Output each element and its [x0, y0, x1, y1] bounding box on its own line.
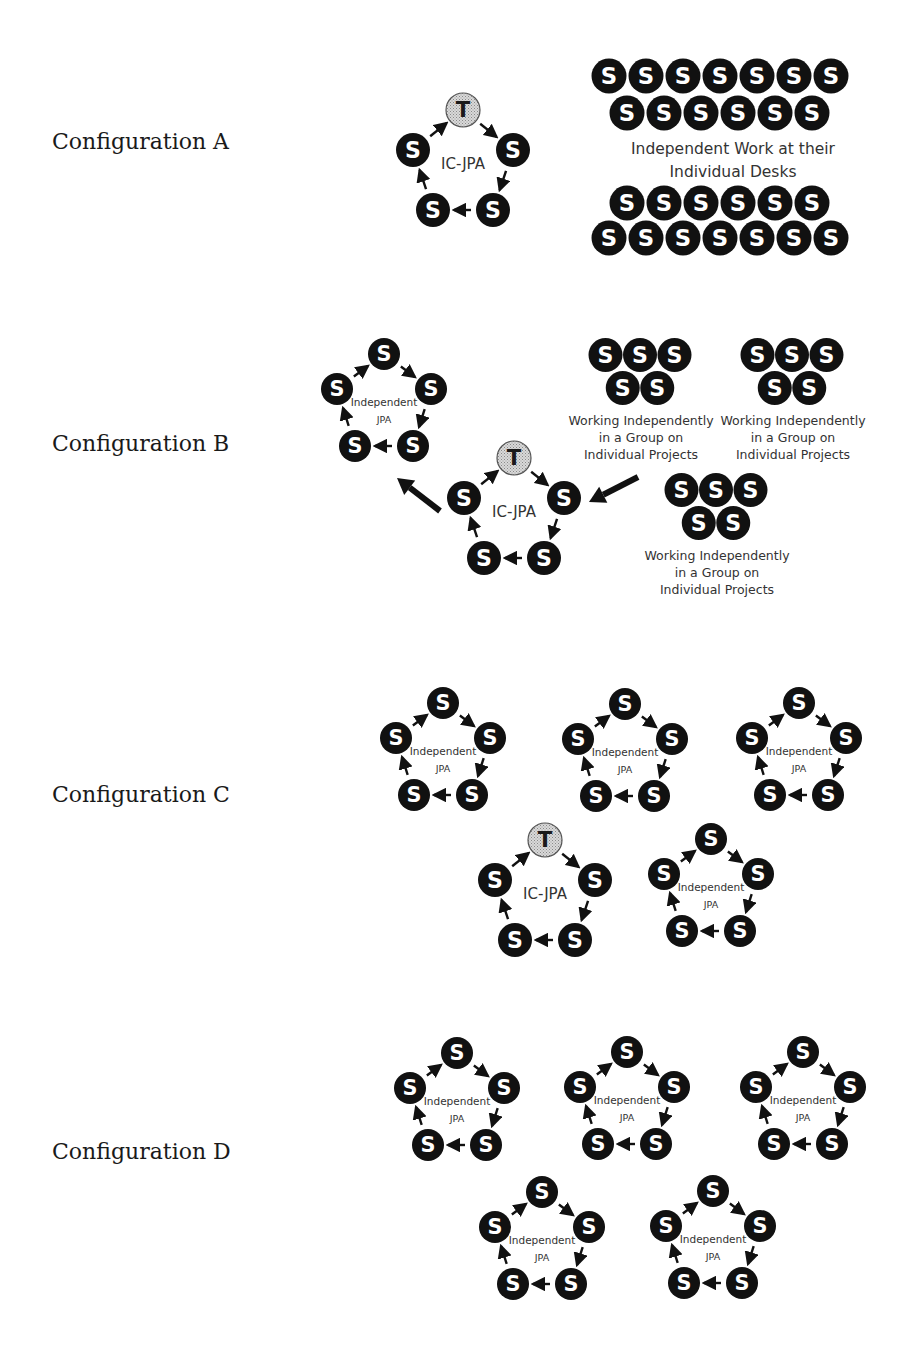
group-caption: Working Independently	[568, 413, 714, 428]
svg-text:S: S	[706, 1179, 721, 1203]
teacher-node: T	[497, 441, 531, 475]
svg-text:S: S	[749, 1075, 764, 1099]
cycle-arrow-icon	[427, 1065, 441, 1076]
student-node: S	[648, 858, 680, 890]
svg-text:S: S	[598, 342, 614, 368]
svg-text:S: S	[667, 1075, 682, 1099]
svg-text:S: S	[330, 377, 345, 401]
independent-label: Independent	[351, 396, 418, 408]
svg-text:S: S	[497, 1076, 512, 1100]
cycle-arrow-icon	[430, 123, 446, 136]
svg-text:S: S	[476, 545, 492, 571]
svg-text:S: S	[674, 477, 690, 503]
group-student: S	[734, 473, 768, 507]
group-caption: Individual Projects	[736, 447, 850, 462]
svg-text:S: S	[819, 342, 835, 368]
cycle-arrow-icon	[728, 852, 742, 863]
svg-text:S: S	[619, 190, 635, 216]
svg-text:S: S	[377, 342, 392, 366]
cycle-arrow-icon	[597, 1064, 611, 1075]
cycle-arrow-icon	[748, 1246, 754, 1264]
group-caption: in a Group on	[751, 430, 836, 445]
cycle-arrow-icon	[401, 367, 415, 378]
student-node: S	[496, 133, 530, 167]
student-desk: S	[629, 59, 664, 94]
svg-text:S: S	[556, 485, 572, 511]
cycle-arrow-icon	[584, 758, 590, 776]
jpa-label: JPA	[703, 899, 719, 910]
independent-jpa-cluster: SSSSSIndependentJPA	[740, 1036, 866, 1160]
svg-text:S: S	[804, 190, 820, 216]
svg-text:S: S	[488, 1215, 503, 1239]
svg-text:S: S	[647, 784, 662, 808]
group-student: S	[741, 338, 775, 372]
svg-text:S: S	[573, 1075, 588, 1099]
student-desk: S	[684, 186, 719, 221]
cycle-arrow-icon	[413, 715, 427, 726]
svg-text:S: S	[693, 100, 709, 126]
svg-text:S: S	[601, 63, 617, 89]
svg-text:T: T	[538, 827, 553, 852]
group-student: S	[589, 338, 623, 372]
cycle-arrow-icon	[670, 893, 676, 911]
svg-text:S: S	[751, 862, 766, 886]
independent-label: Independent	[410, 745, 477, 757]
cycle-arrow-icon	[460, 716, 474, 727]
svg-text:S: S	[601, 225, 617, 251]
student-node: S	[396, 133, 430, 167]
independent-group: SSSSSWorking Independentlyin a Group onI…	[568, 338, 714, 462]
teacher-node: T	[528, 823, 562, 857]
svg-text:S: S	[389, 726, 404, 750]
svg-text:S: S	[507, 927, 523, 953]
student-node: S	[783, 687, 815, 719]
svg-text:S: S	[649, 375, 665, 401]
cycle-arrow-icon	[501, 1246, 507, 1264]
cycle-arrow-icon	[762, 1106, 768, 1124]
cycle-arrow-icon	[586, 1106, 592, 1124]
student-desk: S	[814, 59, 849, 94]
svg-text:S: S	[801, 375, 817, 401]
group-student: S	[699, 473, 733, 507]
cycle-arrow-icon	[642, 717, 656, 728]
svg-text:S: S	[786, 225, 802, 251]
student-desk: S	[610, 186, 645, 221]
svg-text:S: S	[403, 1076, 418, 1100]
cycle-arrow-icon	[531, 472, 547, 485]
svg-text:S: S	[730, 100, 746, 126]
group-caption: Individual Projects	[584, 447, 698, 462]
svg-text:S: S	[675, 63, 691, 89]
cycle-arrow-icon	[478, 758, 484, 776]
student-node: S	[830, 722, 862, 754]
jpa-label: JPA	[795, 1112, 811, 1123]
cycle-arrow-icon	[582, 901, 588, 920]
svg-text:S: S	[704, 827, 719, 851]
student-desk: S	[703, 221, 738, 256]
student-node: S	[558, 923, 592, 957]
student-node: S	[321, 373, 353, 405]
svg-text:S: S	[450, 1041, 465, 1065]
student-node: S	[724, 915, 756, 947]
student-desk: S	[666, 221, 701, 256]
jpa-label: JPA	[617, 764, 633, 775]
cycle-arrow-icon	[577, 1247, 583, 1265]
flow-arrow-icon	[397, 478, 440, 511]
student-desk: S	[740, 59, 775, 94]
student-node: S	[658, 1071, 690, 1103]
cycle-arrow-icon	[416, 1107, 422, 1125]
student-desk: S	[777, 59, 812, 94]
cycle-arrow-icon	[838, 1107, 844, 1125]
svg-text:S: S	[505, 137, 521, 163]
student-desk: S	[610, 96, 645, 131]
student-node: S	[467, 541, 501, 575]
svg-text:S: S	[767, 375, 783, 401]
student-node: S	[339, 430, 371, 462]
svg-text:S: S	[582, 1215, 597, 1239]
student-node: S	[562, 723, 594, 755]
cycle-arrow-icon	[420, 170, 426, 189]
svg-text:S: S	[506, 1272, 521, 1296]
cycle-arrow-icon	[480, 124, 496, 137]
svg-text:S: S	[485, 197, 501, 223]
cycle-arrow-icon	[746, 894, 752, 912]
student-desk: S	[703, 59, 738, 94]
independent-group: SSSSSWorking Independentlyin a Group onI…	[644, 473, 790, 597]
